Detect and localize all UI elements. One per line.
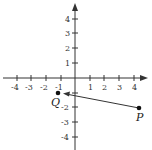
point-q-label: Q <box>51 96 60 109</box>
y-axis-arrow-icon <box>72 3 78 11</box>
x-tick-label: 3 <box>117 83 122 92</box>
point-p <box>137 106 142 111</box>
vector-arrowhead-icon <box>63 92 70 97</box>
coordinate-plane-diagram: -4 -3 -2 -1 1 2 3 4 4 3 2 1 -2 -3 -4 Q P <box>0 0 152 150</box>
y-tick-label: -3 <box>61 118 69 127</box>
y-tick-label: 2 <box>65 44 70 53</box>
x-tick-label: -3 <box>25 83 33 92</box>
x-tick-label: 4 <box>132 83 137 92</box>
x-tick-label: -2 <box>40 83 48 92</box>
point-p-label: P <box>135 111 144 124</box>
graph-svg: -4 -3 -2 -1 1 2 3 4 4 3 2 1 -2 -3 -4 Q P <box>0 0 152 150</box>
x-tick-label: -1 <box>55 83 63 92</box>
point-q <box>56 91 61 96</box>
x-tick-label: -4 <box>11 83 19 92</box>
vector-line <box>66 94 139 108</box>
y-tick-label: 3 <box>65 29 70 38</box>
x-axis-arrow-icon <box>140 75 148 81</box>
x-tick-label: 1 <box>88 83 93 92</box>
x-tick-label: 2 <box>102 83 107 92</box>
y-tick-label: -2 <box>61 103 69 112</box>
y-tick-label: 1 <box>65 59 70 68</box>
y-tick-label: -4 <box>61 133 69 142</box>
y-tick-label: 4 <box>65 15 70 24</box>
